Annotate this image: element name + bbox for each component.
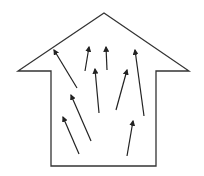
- arrow-icon: [116, 70, 127, 110]
- arrow-icon: [95, 69, 99, 113]
- arrow-icon: [63, 117, 79, 154]
- arrow-icon: [54, 50, 77, 88]
- house-outline: [18, 13, 189, 166]
- arrow-icon: [135, 50, 144, 116]
- arrow-icon: [71, 95, 91, 141]
- arrow-group: [54, 47, 144, 156]
- arrow-icon: [127, 121, 133, 156]
- house-diagram: [0, 0, 204, 176]
- arrow-icon: [106, 47, 107, 70]
- arrow-icon: [85, 47, 89, 71]
